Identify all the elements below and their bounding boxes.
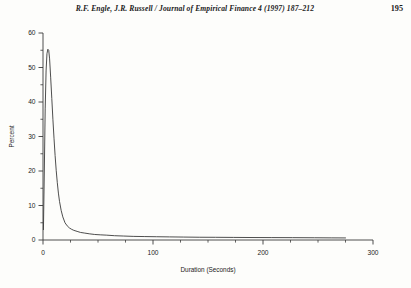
y-tick-label: 0: [32, 236, 36, 243]
scanned-page: R.F. Engle, J.R. Russell / Journal of Em…: [0, 0, 411, 288]
figure-duration-density: 01002003000102030405060Duration (Seconds…: [0, 22, 411, 288]
running-head: R.F. Engle, J.R. Russell / Journal of Em…: [0, 4, 411, 18]
x-tick-label: 100: [147, 249, 158, 256]
y-tick-label: 60: [28, 29, 36, 36]
y-axis-title: Percent: [8, 125, 15, 147]
data-series-line: [43, 49, 345, 238]
y-tick-label: 40: [28, 98, 36, 105]
y-tick-label: 10: [28, 202, 36, 209]
page-number: 195: [391, 4, 403, 13]
y-tick-label: 30: [28, 133, 36, 140]
journal-citation: R.F. Engle, J.R. Russell / Journal of Em…: [45, 4, 345, 13]
x-axis-title: Duration (Seconds): [180, 266, 235, 274]
x-tick-label: 200: [257, 249, 268, 256]
x-tick-label: 300: [367, 249, 378, 256]
y-tick-label: 50: [28, 64, 36, 71]
line-chart: 01002003000102030405060Duration (Seconds…: [0, 22, 411, 288]
x-tick-label: 0: [41, 249, 45, 256]
y-tick-label: 20: [28, 167, 36, 174]
